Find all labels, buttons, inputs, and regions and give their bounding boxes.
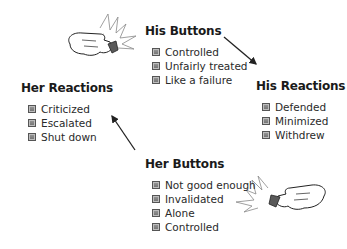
square-bullet-icon	[28, 105, 36, 113]
item-label: Escalated	[41, 116, 92, 130]
square-bullet-icon	[152, 223, 160, 231]
square-bullet-icon	[152, 48, 160, 56]
square-bullet-icon	[262, 131, 270, 139]
item-label: Criticized	[41, 102, 90, 116]
square-bullet-icon	[262, 103, 270, 111]
her-buttons-block: Her Buttons Not good enough Invalidated …	[145, 157, 256, 234]
list-item: Controlled	[152, 220, 256, 234]
item-label: Invalidated	[165, 192, 224, 206]
item-label: Controlled	[165, 45, 219, 59]
square-bullet-icon	[152, 62, 160, 70]
item-label: Minimized	[275, 114, 328, 128]
square-bullet-icon	[28, 133, 36, 141]
item-label: Not good enough	[165, 178, 256, 192]
her-buttons-title: Her Buttons	[145, 157, 256, 171]
square-bullet-icon	[28, 119, 36, 127]
item-label: Withdrew	[275, 128, 325, 142]
list-item: Minimized	[262, 114, 345, 128]
his-reactions-title: His Reactions	[256, 79, 345, 93]
his-reactions-block: His Reactions Defended Minimized Withdre…	[256, 79, 345, 142]
square-bullet-icon	[152, 209, 160, 217]
list-item: Invalidated	[152, 192, 256, 206]
her-reactions-block: Her Reactions Criticized Escalated Shut …	[21, 81, 113, 144]
list-item: Defended	[262, 100, 345, 114]
her-buttons-list: Not good enough Invalidated Alone Contro…	[152, 178, 256, 234]
her-reactions-title: Her Reactions	[21, 81, 113, 95]
list-item: Escalated	[28, 116, 113, 130]
item-label: Unfairly treated	[165, 59, 248, 73]
item-label: Defended	[275, 100, 326, 114]
list-item: Shut down	[28, 130, 113, 144]
square-bullet-icon	[262, 117, 270, 125]
square-bullet-icon	[152, 181, 160, 189]
his-buttons-title: His Buttons	[145, 24, 248, 38]
list-item: Not good enough	[152, 178, 256, 192]
square-bullet-icon	[152, 195, 160, 203]
list-item: Like a failure	[152, 73, 248, 87]
his-buttons-block: His Buttons Controlled Unfairly treated …	[145, 24, 248, 87]
item-label: Controlled	[165, 220, 219, 234]
list-item: Alone	[152, 206, 256, 220]
list-item: Withdrew	[262, 128, 345, 142]
list-item: Unfairly treated	[152, 59, 248, 73]
list-item: Controlled	[152, 45, 248, 59]
item-label: Like a failure	[165, 73, 232, 87]
his-reactions-list: Defended Minimized Withdrew	[262, 100, 345, 142]
his-buttons-list: Controlled Unfairly treated Like a failu…	[152, 45, 248, 87]
item-label: Alone	[165, 206, 195, 220]
item-label: Shut down	[41, 130, 97, 144]
square-bullet-icon	[152, 76, 160, 84]
list-item: Criticized	[28, 102, 113, 116]
her-reactions-list: Criticized Escalated Shut down	[28, 102, 113, 144]
